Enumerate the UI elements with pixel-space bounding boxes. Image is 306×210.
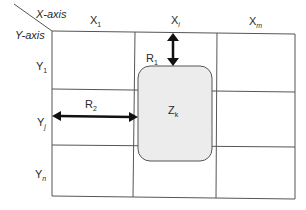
r1-label: R1 — [146, 52, 158, 64]
grid-col-divider-2 — [216, 33, 217, 198]
x-axis-label: X-axis — [36, 8, 67, 20]
y-axis-label: Y-axis — [15, 29, 45, 41]
row-header-y1: Y1 — [36, 60, 47, 72]
column-header-x1: X1 — [90, 14, 101, 26]
row-header-yn: Yn — [35, 168, 46, 180]
zone-label: Zk — [168, 104, 178, 116]
r2-double-arrow — [52, 111, 138, 122]
column-header-xm: Xm — [249, 15, 262, 27]
r1-double-arrow — [167, 33, 179, 66]
column-header-xi: Xi — [171, 14, 180, 26]
row-header-yj: Yj — [37, 116, 46, 128]
r2-label: R2 — [85, 98, 97, 110]
